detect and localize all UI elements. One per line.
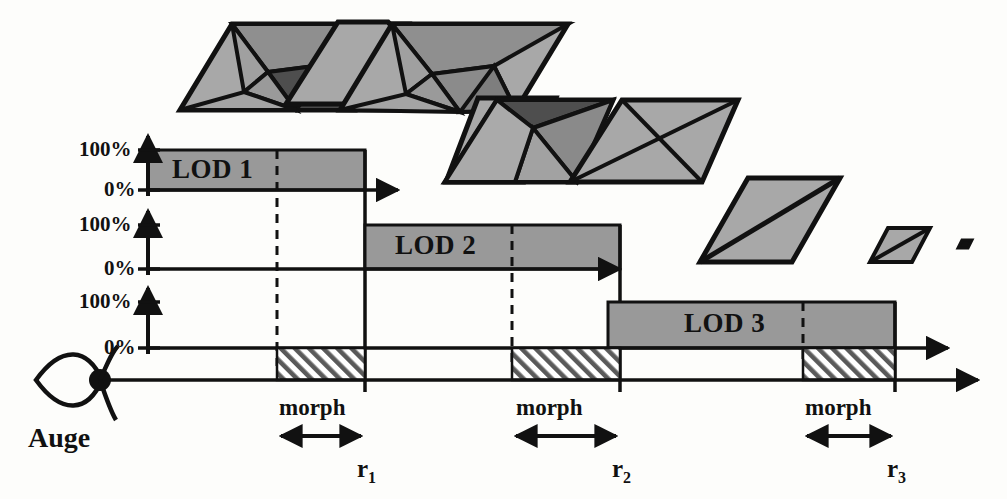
r2-label: r2: [612, 456, 631, 486]
morph-label-2: morph: [516, 396, 582, 419]
mesh-lod3-a: [700, 178, 840, 262]
diagram-canvas: [0, 0, 1007, 499]
lod2-axis-label-100: 100%: [79, 214, 132, 235]
r2-index: 2: [623, 469, 631, 486]
lod1-axis-label-0: 0%: [104, 179, 136, 200]
lod3-label: LOD 3: [684, 310, 765, 337]
morph-band-3: [803, 348, 895, 380]
r3-index: 3: [898, 469, 906, 486]
lod-morphing-diagram: 100% 0% 100% 0% 100% 0% LOD 1 LOD 2 LOD …: [0, 0, 1007, 499]
lod2-label: LOD 2: [395, 232, 476, 259]
auge-label: Auge: [28, 424, 90, 452]
lod2-axis-label-0: 0%: [104, 258, 136, 279]
morph-band-2: [512, 348, 620, 380]
r1-index: 1: [368, 469, 376, 486]
mesh-lod3-c: [958, 240, 972, 248]
r1-label: r1: [357, 456, 376, 486]
r2-letter: r: [612, 455, 623, 482]
morph-label-1: morph: [279, 396, 345, 419]
morph-band-1: [277, 348, 365, 380]
lod1-label: LOD 1: [172, 156, 253, 183]
r3-label: r3: [887, 456, 906, 486]
morph-label-3: morph: [805, 396, 871, 419]
r3-letter: r: [887, 455, 898, 482]
mesh-lod3-b: [870, 228, 930, 262]
lod3-axis-label-100: 100%: [79, 291, 132, 312]
lod3-axis-label-0: 0%: [104, 337, 136, 358]
lod1-axis-label-100: 100%: [79, 139, 132, 160]
r1-letter: r: [357, 455, 368, 482]
